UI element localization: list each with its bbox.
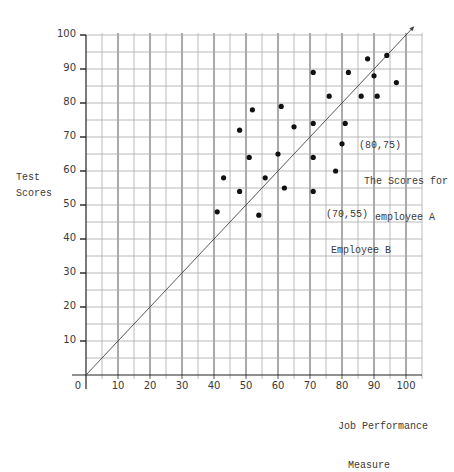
x-axis-label-line1: Job Performance: [338, 420, 428, 433]
annotation-a-coords: (80,75): [359, 140, 448, 152]
y-axis-label-line1: Test: [16, 170, 52, 186]
data-point: [384, 53, 389, 58]
y-tick-label: 90: [52, 62, 76, 73]
y-tick-label: 80: [52, 96, 76, 107]
y-tick-label: 40: [52, 232, 76, 243]
data-point: [394, 80, 399, 85]
data-point: [237, 189, 242, 194]
y-tick-label: 30: [52, 266, 76, 277]
data-point: [215, 209, 220, 214]
data-point: [346, 70, 351, 75]
data-point: [327, 94, 332, 99]
y-tick-label: 10: [52, 334, 76, 345]
x-tick-label: 30: [170, 380, 194, 391]
data-point: [311, 189, 316, 194]
data-point: [371, 73, 376, 78]
annotation-b-line2: Employee B: [326, 245, 391, 257]
annotation-b-coords: (70,55): [326, 209, 391, 221]
data-point: [221, 175, 226, 180]
data-point: [311, 155, 316, 160]
data-point: [250, 107, 255, 112]
y-tick-label: 100: [52, 28, 76, 39]
data-point: [275, 151, 280, 156]
x-tick-label: 0: [66, 380, 90, 391]
data-point: [263, 175, 268, 180]
y-axis-label: Test Scores: [16, 170, 52, 202]
y-tick-label: 50: [52, 198, 76, 209]
x-axis-label: Job Performance Measure: [338, 394, 428, 472]
data-point: [365, 56, 370, 61]
data-point: [282, 185, 287, 190]
annotation-employee-b: (70,55) Employee B: [326, 185, 391, 269]
x-tick-label: 80: [330, 380, 354, 391]
data-point: [333, 168, 338, 173]
y-tick-label: 70: [52, 130, 76, 141]
y-tick-label: 60: [52, 164, 76, 175]
data-point: [375, 94, 380, 99]
data-point: [359, 94, 364, 99]
x-tick-label: 10: [106, 380, 130, 391]
y-axis-label-line2: Scores: [16, 186, 52, 202]
x-tick-label: 90: [362, 380, 386, 391]
x-tick-label: 70: [298, 380, 322, 391]
data-point: [291, 124, 296, 129]
data-point: [339, 141, 344, 146]
data-point: [256, 213, 261, 218]
data-point: [237, 128, 242, 133]
data-point: [311, 70, 316, 75]
x-tick-label: 60: [266, 380, 290, 391]
data-point: [279, 104, 284, 109]
data-point: [343, 121, 348, 126]
y-tick-label: 20: [52, 300, 76, 311]
x-axis-label-line2: Measure: [338, 459, 428, 472]
data-point: [247, 155, 252, 160]
x-tick-label: 40: [202, 380, 226, 391]
x-tick-label: 20: [138, 380, 162, 391]
x-tick-label: 50: [234, 380, 258, 391]
x-tick-label: 100: [394, 380, 418, 391]
data-point: [311, 121, 316, 126]
